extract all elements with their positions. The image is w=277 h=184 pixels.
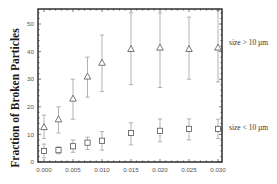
triangle-marker bbox=[84, 73, 91, 79]
y-tick-label: 0 bbox=[31, 158, 35, 165]
square-marker bbox=[41, 148, 46, 153]
y-tick-label: 40 bbox=[27, 48, 34, 55]
axes-frame bbox=[38, 9, 222, 162]
plot-frame bbox=[38, 9, 222, 162]
x-axis-ticks: 0.0000.0050.0100.0150.0200.0250.030 bbox=[36, 166, 226, 173]
series-label-small: size < 10 µm bbox=[229, 123, 268, 132]
x-tick-label: 0.025 bbox=[181, 166, 197, 173]
square-marker bbox=[128, 130, 133, 135]
triangle-marker bbox=[99, 59, 106, 65]
series-labels: size > 10 µmsize < 10 µm bbox=[229, 38, 268, 132]
square-marker bbox=[157, 128, 162, 133]
square-marker bbox=[215, 126, 220, 131]
square-marker bbox=[56, 148, 61, 153]
triangle-marker bbox=[41, 124, 48, 130]
square-marker bbox=[70, 144, 75, 149]
x-tick-label: 0.005 bbox=[65, 166, 81, 173]
triangle-marker bbox=[215, 44, 222, 50]
square-marker bbox=[85, 140, 90, 145]
y-tick-label: 20 bbox=[27, 103, 34, 110]
chart: Fraction of Broken Particles 0.0000.0050… bbox=[0, 0, 277, 184]
x-tick-label: 0.015 bbox=[123, 166, 139, 173]
y-tick-label: 50 bbox=[27, 20, 34, 27]
x-tick-label: 0.000 bbox=[36, 166, 52, 173]
x-tick-label: 0.030 bbox=[210, 166, 226, 173]
square-marker bbox=[186, 126, 191, 131]
triangle-marker bbox=[70, 95, 77, 101]
triangle-marker bbox=[128, 46, 135, 52]
series-label-large: size > 10 µm bbox=[229, 38, 268, 47]
triangle-marker bbox=[186, 46, 193, 52]
y-axis-title: Fraction of Broken Particles bbox=[9, 28, 21, 168]
y-tick-label: 10 bbox=[27, 131, 34, 138]
y-tick-label: 30 bbox=[27, 75, 34, 82]
y-axis-label: Fraction of Broken Particles bbox=[9, 28, 21, 168]
y-axis-ticks: 01020304050 bbox=[27, 20, 34, 165]
x-tick-label: 0.020 bbox=[152, 166, 168, 173]
square-marker bbox=[99, 138, 104, 143]
triangle-marker bbox=[55, 116, 62, 122]
triangle-marker bbox=[157, 44, 164, 50]
x-tick-label: 0.010 bbox=[94, 166, 110, 173]
